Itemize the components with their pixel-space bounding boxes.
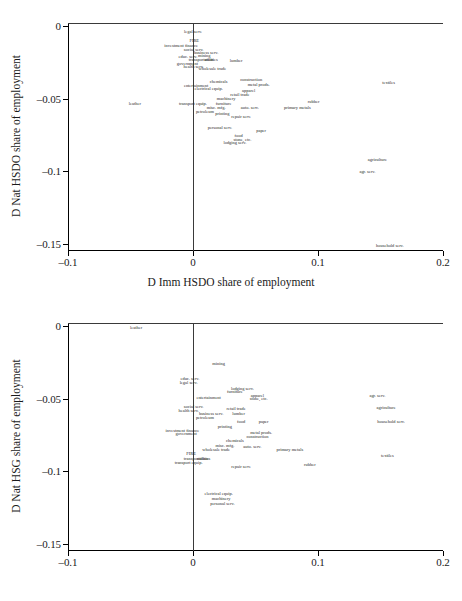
scatter-panel-bottom: 0–0.05–0.1–0.15–0.100.10.2leathermininge… — [0, 300, 462, 600]
data-point-label: petroleum — [196, 110, 214, 114]
data-point-label: entertainment — [196, 396, 220, 400]
y-tick-mark — [63, 26, 68, 27]
data-point-label: electrical equip. — [204, 491, 232, 495]
y-tick-label: –0.1 — [42, 165, 61, 177]
data-point-label: metal prods. — [248, 83, 270, 87]
data-point-label: construction — [246, 435, 268, 439]
y-tick-mark — [63, 171, 68, 172]
data-point-label: auto. serv. — [243, 445, 261, 449]
data-point-label: leather — [130, 326, 142, 330]
data-point-label: printing — [218, 425, 232, 429]
data-point-label: petroleum — [196, 416, 214, 420]
data-point-label: household serv. — [376, 244, 404, 248]
data-point-label: mining — [212, 362, 225, 366]
data-point-label: furniture — [227, 390, 243, 394]
x-tick-label: 0 — [190, 256, 195, 268]
data-point-label: chemicals — [210, 80, 228, 84]
data-point-label: repair serv. — [231, 114, 251, 118]
data-point-label: primary metals — [277, 448, 304, 452]
y-tick-mark — [63, 471, 68, 472]
data-point-label: agr. serv. — [359, 170, 375, 174]
data-point-label: rubber — [308, 100, 320, 104]
zero-reference-line-horizontal-top — [68, 23, 443, 24]
data-point-label: personal serv. — [210, 502, 234, 506]
data-point-label: utilities — [204, 58, 217, 62]
y-tick-mark — [63, 544, 68, 545]
x-tick-label: –0.1 — [59, 256, 78, 268]
data-point-label: transport equip. — [179, 101, 207, 105]
x-axis-line-top — [68, 250, 443, 251]
data-point-label: primary metals — [284, 106, 311, 110]
data-point-label: lodging serv. — [223, 141, 246, 145]
data-point-label: textiles — [381, 454, 394, 458]
plot-area-bottom: 0–0.05–0.1–0.15–0.100.10.2leathermininge… — [68, 323, 443, 551]
data-point-label: electrical equip. — [194, 87, 222, 91]
data-point-label: transport equip. — [175, 461, 203, 465]
figure-two-panel-scatter: 0–0.05–0.1–0.15–0.100.10.2legal serv.FIR… — [0, 0, 462, 601]
y-tick-mark — [63, 399, 68, 400]
data-point-label: wholesale trade — [199, 67, 227, 71]
zero-reference-line-vertical-bottom — [193, 323, 194, 551]
y-tick-label: 0 — [56, 320, 61, 332]
y-tick-mark — [63, 326, 68, 327]
y-tick-label: –0.15 — [37, 238, 61, 250]
data-point-label: wholesale trade — [202, 448, 230, 452]
data-point-label: agriculture — [377, 406, 396, 410]
x-tick-label: 0.2 — [436, 256, 449, 268]
data-point-label: household serv. — [377, 420, 405, 424]
x-tick-label: 0.1 — [311, 556, 324, 568]
y-axis-line-top — [68, 23, 69, 251]
data-point-label: leather — [129, 101, 141, 105]
y-tick-label: –0.15 — [37, 538, 61, 550]
y-tick-label: 0 — [56, 20, 61, 32]
x-tick-label: 0.2 — [436, 556, 449, 568]
plot-area-top: 0–0.05–0.1–0.15–0.100.10.2legal serv.FIR… — [68, 23, 443, 251]
scatter-panel-top: 0–0.05–0.1–0.15–0.100.10.2legal serv.FIR… — [0, 0, 462, 300]
x-tick-label: 0 — [190, 556, 195, 568]
y-tick-label: –0.05 — [37, 93, 61, 105]
data-point-label: repair serv. — [231, 465, 251, 469]
x-axis-title-top: D Imm HSDO share of employment — [0, 276, 462, 288]
data-point-label: paper — [259, 420, 269, 424]
data-point-label: personal serv. — [208, 126, 232, 130]
data-point-label: agr. serv. — [369, 394, 385, 398]
data-point-label: printing — [215, 112, 229, 116]
data-point-label: paper — [256, 129, 266, 133]
data-point-label: auto. serv. — [241, 106, 259, 110]
data-point-label: health serv. — [179, 409, 199, 413]
y-tick-label: –0.05 — [37, 393, 61, 405]
y-axis-title-top: D Nat HSDO share of employment — [10, 46, 22, 226]
x-tick-label: –0.1 — [59, 556, 78, 568]
data-point-label: government — [176, 432, 197, 436]
zero-reference-line-horizontal-bottom — [68, 323, 443, 324]
y-tick-label: –0.1 — [42, 465, 61, 477]
y-axis-title-bottom: D Nat HSG share of employment — [10, 346, 22, 526]
data-point-label: lumber — [232, 412, 245, 416]
y-tick-mark — [63, 244, 68, 245]
data-point-label: food — [237, 420, 245, 424]
data-point-label: agriculture — [368, 158, 387, 162]
data-point-label: legal serv. — [184, 30, 202, 34]
y-axis-line-bottom — [68, 323, 69, 551]
data-point-label: textiles — [382, 81, 395, 85]
data-point-label: lumber — [230, 59, 243, 63]
data-point-label: stone, etc. — [250, 397, 268, 401]
data-point-label: rubber — [304, 462, 316, 466]
x-axis-line-bottom — [68, 550, 443, 551]
y-tick-mark — [63, 99, 68, 100]
data-point-label: legal serv. — [180, 381, 198, 385]
x-tick-label: 0.1 — [311, 256, 324, 268]
